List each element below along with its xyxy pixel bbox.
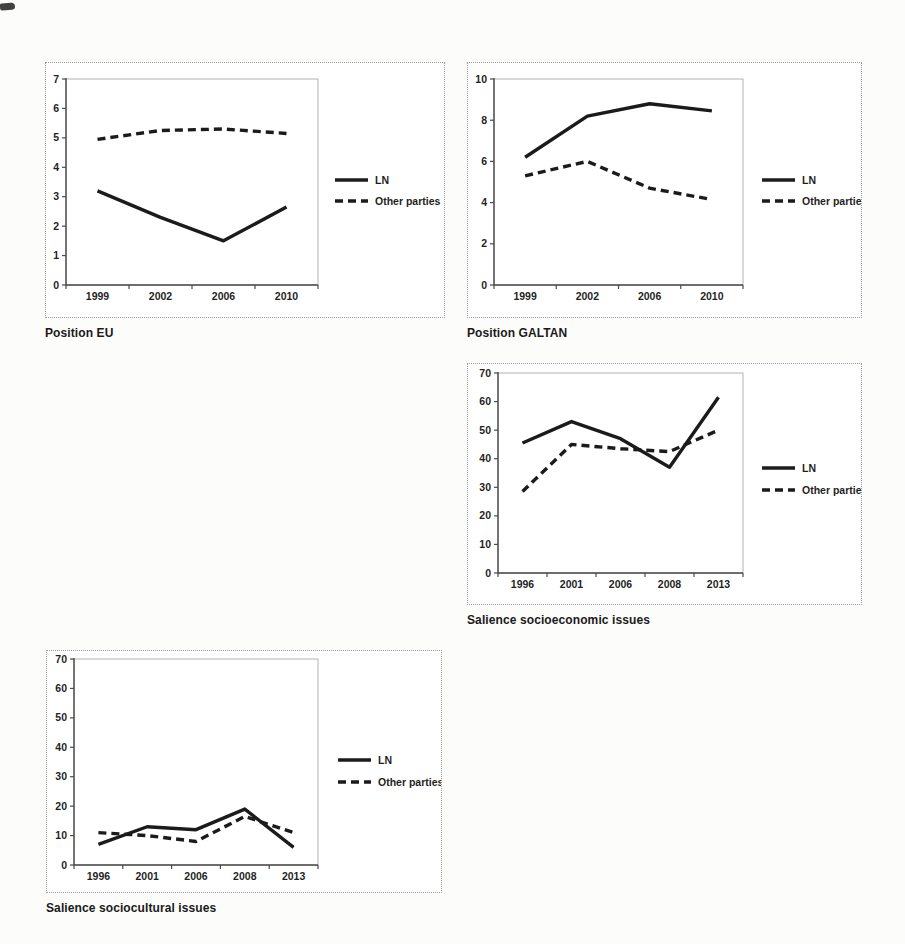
x-tick-label: 2001 [560, 578, 584, 590]
x-tick-label: 2010 [700, 290, 724, 302]
y-tick-label: 10 [55, 829, 67, 841]
x-tick-label: 2013 [707, 578, 731, 590]
y-tick-label: 20 [55, 800, 67, 812]
y-tick-label: 20 [479, 509, 491, 521]
legend-label-ln: LN [378, 754, 392, 766]
legend-label-other-parties: Other parties [802, 195, 861, 207]
y-tick-label: 4 [53, 161, 59, 173]
chart-caption-position-eu: Position EU [45, 326, 445, 340]
y-tick-label: 0 [485, 567, 491, 579]
scan-artifact-mark [0, 2, 15, 10]
y-tick-label: 60 [479, 395, 491, 407]
salience-sociocultural-line-chart: 01020304050607019962001200620082013LNOth… [47, 651, 441, 892]
x-tick-label: 2006 [212, 290, 236, 302]
chart-frame-salience-sociocultural: 01020304050607019962001200620082013LNOth… [46, 650, 442, 893]
y-tick-label: 5 [53, 131, 59, 143]
y-tick-label: 0 [61, 859, 67, 871]
plot-frame [498, 373, 743, 573]
x-tick-label: 2013 [282, 870, 306, 882]
plot-frame [74, 659, 318, 865]
x-tick-label: 1999 [86, 290, 110, 302]
y-tick-label: 30 [479, 481, 491, 493]
y-tick-label: 10 [479, 538, 491, 550]
chart-caption-salience-socioeconomic: Salience socioeconomic issues [467, 613, 862, 627]
y-tick-label: 3 [53, 190, 59, 202]
figure-position-eu: 012345671999200220062010LNOther parties … [45, 62, 445, 340]
y-tick-label: 30 [55, 770, 67, 782]
x-tick-labels: 1999200220062010 [66, 285, 318, 302]
x-tick-label: 2006 [638, 290, 662, 302]
y-tick-label: 0 [53, 279, 59, 291]
y-tick-label: 6 [53, 102, 59, 114]
y-tick-label: 8 [481, 114, 487, 126]
y-tick-label: 0 [481, 279, 487, 291]
legend-label-other-parties: Other parties [802, 484, 861, 496]
chart-caption-position-galtan: Position GALTAN [467, 326, 862, 340]
plot-frame [66, 79, 318, 285]
legend-label-other-parties: Other parties [375, 195, 441, 207]
y-tick-label: 7 [53, 73, 59, 85]
legend: LNOther parties [762, 462, 861, 496]
y-tick-label: 2 [53, 220, 59, 232]
legend-label-ln: LN [802, 174, 816, 186]
y-tick-label: 60 [55, 682, 67, 694]
legend: LNOther parties [762, 174, 861, 207]
figure-position-galtan: 02468101999200220062010LNOther parties P… [467, 62, 862, 340]
y-tick-label: 2 [481, 237, 487, 249]
y-tick-label: 1 [53, 249, 59, 261]
y-tick-labels: 0246810 [475, 73, 494, 291]
x-tick-label: 2010 [275, 290, 299, 302]
chart-frame-position-eu: 012345671999200220062010LNOther parties [45, 62, 445, 318]
legend-label-other-parties: Other parties [378, 776, 441, 788]
series-line-ln [523, 397, 719, 467]
figure-salience-sociocultural: 01020304050607019962001200620082013LNOth… [46, 650, 442, 915]
salience-socioeconomic-line-chart: 01020304050607019962001200620082013LNOth… [468, 364, 861, 604]
figure-salience-socioeconomic: 01020304050607019962001200620082013LNOth… [467, 363, 862, 627]
y-tick-labels: 01234567 [53, 73, 66, 291]
legend-label-ln: LN [375, 174, 389, 186]
x-tick-label: 2008 [658, 578, 682, 590]
x-tick-label: 2008 [233, 870, 257, 882]
x-tick-labels: 1999200220062010 [494, 285, 743, 302]
y-tick-label: 50 [55, 711, 67, 723]
series-line-other-parties [525, 161, 712, 199]
chart-caption-salience-sociocultural: Salience sociocultural issues [46, 901, 442, 915]
series-line-ln [98, 191, 287, 241]
y-tick-label: 50 [479, 424, 491, 436]
x-tick-labels: 19962001200620082013 [74, 865, 318, 882]
page: { "page": { "background": "#fcfcfb", "co… [0, 0, 905, 944]
x-tick-labels: 19962001200620082013 [498, 573, 743, 590]
chart-frame-position-galtan: 02468101999200220062010LNOther parties [467, 62, 862, 318]
x-tick-label: 2006 [184, 870, 208, 882]
y-tick-labels: 010203040506070 [479, 367, 498, 579]
y-tick-label: 40 [55, 741, 67, 753]
x-tick-label: 2002 [576, 290, 600, 302]
y-tick-label: 6 [481, 155, 487, 167]
y-tick-label: 70 [479, 367, 491, 379]
y-tick-label: 4 [481, 196, 487, 208]
position-galtan-line-chart: 02468101999200220062010LNOther parties [468, 63, 861, 317]
y-tick-label: 10 [475, 73, 487, 85]
position-eu-line-chart: 012345671999200220062010LNOther parties [46, 63, 444, 317]
y-tick-label: 40 [479, 452, 491, 464]
legend: LNOther parties [335, 174, 441, 207]
y-tick-labels: 010203040506070 [55, 653, 74, 871]
y-tick-label: 70 [55, 653, 67, 665]
x-tick-label: 2002 [149, 290, 173, 302]
series-line-other-parties [98, 129, 287, 139]
x-tick-label: 1996 [87, 870, 111, 882]
x-tick-label: 1999 [513, 290, 537, 302]
x-tick-label: 2006 [609, 578, 633, 590]
series-line-ln [525, 104, 712, 158]
legend-label-ln: LN [802, 462, 816, 474]
x-tick-label: 1996 [511, 578, 535, 590]
legend: LNOther parties [338, 754, 441, 788]
x-tick-label: 2001 [136, 870, 160, 882]
chart-frame-salience-socioeconomic: 01020304050607019962001200620082013LNOth… [467, 363, 862, 605]
